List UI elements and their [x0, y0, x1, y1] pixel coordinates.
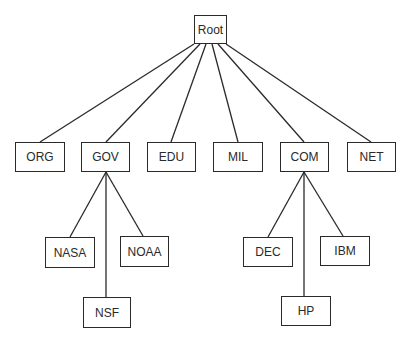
edge-gov-nasa: [70, 172, 106, 237]
node-hp: HP: [281, 296, 331, 326]
edge-root-mil: [212, 44, 238, 142]
node-label: MIL: [228, 150, 248, 164]
node-org: ORG: [15, 142, 65, 172]
node-net: NET: [347, 142, 396, 172]
edge-root-edu: [171, 44, 206, 142]
node-gov: GOV: [81, 142, 130, 172]
node-label: ORG: [26, 150, 53, 164]
edge-gov-noaa: [106, 172, 143, 236]
node-nsf: NSF: [83, 297, 131, 328]
node-noaa: NOAA: [120, 236, 169, 267]
node-com: COM: [280, 142, 329, 172]
node-label: HP: [298, 304, 315, 318]
node-label: EDU: [159, 150, 184, 164]
node-label: IBM: [334, 244, 355, 258]
node-dec: DEC: [243, 237, 293, 267]
node-label: NASA: [54, 246, 87, 260]
node-label: NSF: [95, 306, 119, 320]
node-nasa: NASA: [45, 237, 95, 268]
node-label: NOAA: [127, 245, 161, 259]
edge-com-dec: [268, 172, 304, 237]
edge-com-ibm: [304, 172, 343, 236]
node-label: GOV: [92, 150, 119, 164]
node-label: COM: [291, 150, 319, 164]
node-label: NET: [360, 150, 384, 164]
edge-root-org: [40, 44, 194, 142]
edge-root-com: [218, 44, 304, 142]
node-ibm: IBM: [320, 236, 370, 266]
node-label: Root: [198, 23, 223, 37]
node-root: Root: [194, 15, 227, 44]
edge-root-net: [226, 44, 371, 142]
edge-root-gov: [106, 44, 200, 142]
node-mil: MIL: [213, 142, 263, 172]
node-edu: EDU: [147, 142, 196, 172]
node-label: DEC: [255, 245, 280, 259]
